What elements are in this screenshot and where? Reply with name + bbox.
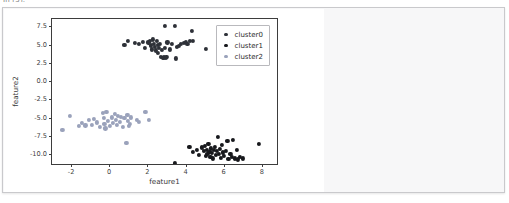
y-axis-title-text: feature2 (11, 76, 20, 107)
data-point (120, 124, 124, 128)
x-tick-mark (262, 164, 263, 167)
data-point (168, 47, 172, 51)
legend-label-cluster0: cluster0 (235, 31, 263, 39)
y-tick-label: -7.5 (34, 132, 47, 140)
matplotlib-figure: feature2 feature1 7.55.02.50.0-2.5-5.0-7… (4, 9, 324, 192)
y-tick-label: -5.0 (34, 114, 47, 122)
data-point (128, 122, 132, 126)
data-point (191, 38, 195, 42)
data-point (137, 120, 141, 124)
y-tick-mark (49, 45, 52, 46)
x-tick-mark (147, 164, 148, 167)
y-tick-label: 7.5 (37, 22, 48, 30)
data-point (106, 119, 110, 123)
legend-item[interactable]: cluster1 (221, 40, 263, 51)
data-point (118, 120, 122, 124)
data-point (143, 109, 147, 113)
notebook-cell-prompt-cutoff: In [5]: (3, 0, 25, 2)
data-point (68, 114, 72, 118)
legend-marker-cluster1 (224, 44, 228, 48)
data-point (197, 153, 201, 157)
data-point (60, 128, 64, 132)
x-tick-label: -2 (68, 168, 75, 176)
data-point (142, 46, 146, 50)
data-point (126, 39, 130, 43)
x-tick-label: 0 (107, 168, 111, 176)
data-point (90, 123, 94, 127)
y-tick-mark (49, 118, 52, 119)
plot-axes: 7.55.02.50.0-2.5-5.0-7.5-10.0-202468 clu… (51, 18, 278, 165)
y-tick-label: -10.0 (30, 150, 47, 158)
y-tick-label: -2.5 (34, 95, 47, 103)
x-tick-mark (71, 164, 72, 167)
data-point (162, 45, 166, 49)
y-tick-mark (49, 136, 52, 137)
y-tick-mark (49, 99, 52, 100)
y-tick-label: 5.0 (37, 41, 48, 49)
data-point (257, 142, 261, 146)
legend-label-cluster1: cluster1 (235, 42, 263, 50)
data-point (104, 110, 108, 114)
data-point (231, 138, 235, 142)
data-point (187, 145, 191, 149)
data-point (241, 156, 245, 160)
data-point (190, 29, 194, 33)
legend-marker-cluster2 (224, 55, 228, 59)
data-point (122, 43, 126, 47)
legend-item[interactable]: cluster0 (221, 29, 263, 40)
data-point (173, 161, 177, 164)
x-tick-label: 2 (145, 168, 149, 176)
data-point (173, 24, 177, 28)
data-point (141, 40, 145, 44)
x-tick-mark (186, 164, 187, 167)
y-tick-mark (49, 81, 52, 82)
y-tick-label: 0.0 (37, 77, 48, 85)
data-point (95, 120, 99, 124)
data-point (129, 115, 133, 119)
data-point (174, 56, 178, 60)
data-point (195, 147, 199, 151)
data-point (203, 47, 207, 51)
data-point (83, 123, 87, 127)
y-tick-label: 2.5 (37, 59, 48, 67)
data-point (147, 117, 151, 121)
data-point (101, 116, 105, 120)
y-tick-mark (49, 63, 52, 64)
plot-output-panel: feature2 feature1 7.55.02.50.0-2.5-5.0-7… (2, 7, 505, 193)
data-point (124, 141, 128, 145)
data-point (223, 149, 227, 153)
x-tick-mark (224, 164, 225, 167)
y-tick-mark (49, 154, 52, 155)
data-point (165, 40, 169, 44)
data-point (170, 42, 174, 46)
x-axis-title: feature1 (51, 177, 278, 186)
x-tick-label: 8 (260, 168, 264, 176)
data-point (216, 135, 220, 139)
x-tick-mark (109, 164, 110, 167)
data-point (235, 148, 239, 152)
x-tick-label: 6 (222, 168, 226, 176)
y-axis-title: feature2 (10, 18, 20, 165)
screenshot-root: In [5]: feature2 feature1 7.55.02.50.0-2… (0, 0, 509, 203)
data-point (220, 143, 224, 147)
data-point (98, 125, 102, 129)
data-point (222, 154, 226, 158)
x-tick-label: 4 (183, 168, 187, 176)
legend-marker-cluster0 (224, 33, 228, 37)
data-point (164, 55, 168, 59)
y-tick-mark (49, 26, 52, 27)
data-point (103, 126, 107, 130)
chart-legend: cluster0 cluster1 cluster2 (216, 25, 270, 66)
data-point (225, 139, 229, 143)
data-point (162, 24, 166, 28)
data-point (211, 156, 215, 160)
legend-item[interactable]: cluster2 (221, 51, 263, 62)
legend-label-cluster2: cluster2 (235, 53, 263, 61)
data-point (158, 41, 162, 45)
